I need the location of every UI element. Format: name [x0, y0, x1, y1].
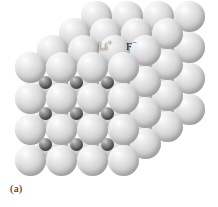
anion-sphere [108, 145, 139, 176]
anion-label: F− [126, 41, 137, 52]
cation-label: Li+ [98, 41, 112, 52]
lif-crystal-lattice-figure: Li+ F− (a) [0, 0, 218, 207]
figure-caption: (a) [10, 182, 22, 194]
lattice-stage [0, 0, 218, 185]
